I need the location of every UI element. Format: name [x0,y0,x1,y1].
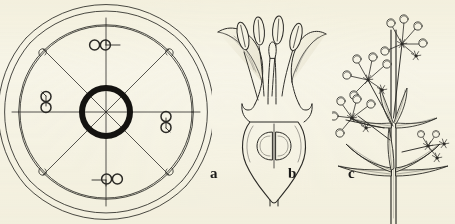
flower-bud [433,131,440,138]
figure-label-c: c [348,166,355,181]
radius-line [12,18,200,206]
style [268,58,276,104]
calyx-rim [242,104,312,122]
flower-bud [332,112,338,120]
flower-bud [353,95,361,103]
floral-diagram-svg [0,0,212,224]
flower-bud [369,53,377,61]
corolla-tube [255,82,299,104]
cyme [381,15,427,60]
flower-bud [418,131,425,138]
stem [391,30,396,224]
flower-bud [353,55,361,63]
plant-habit-svg [332,0,455,224]
flower-bud [383,60,391,68]
cyme [418,131,449,162]
flower-section-svg [212,0,332,224]
flower-bud [343,71,351,79]
flower-bud [414,22,422,30]
flower-bud [336,129,344,137]
open-flower [411,51,420,60]
flower-bud [337,97,345,105]
figure-a-floral-diagram [0,0,212,224]
flower-bud [419,39,427,47]
flower-bud [381,47,389,55]
flower-bud [387,19,395,27]
flower-bud [400,15,408,23]
flower-bud [367,100,375,108]
figure-label-b: b [288,166,296,181]
figure-b-flower-section [212,0,332,224]
botanical-plate: a b c [0,0,455,224]
stigma [269,42,277,58]
leaf-whorl [350,88,437,128]
open-flower [439,139,448,148]
figure-c-plant-habit [332,0,455,224]
cyme [332,95,375,137]
open-flower [423,141,432,150]
open-flower [432,153,441,162]
cyme [343,53,391,99]
figure-label-a: a [210,166,218,181]
